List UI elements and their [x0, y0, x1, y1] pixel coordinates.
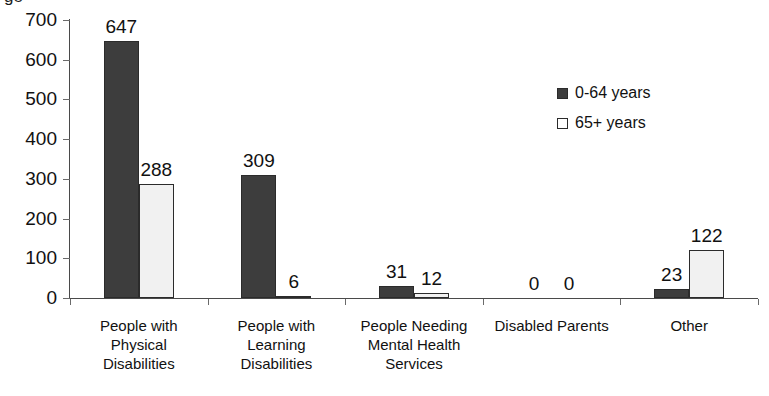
category-label-line: People with — [70, 316, 208, 335]
y-tick-label: 700 — [25, 10, 57, 29]
y-tick-mark — [63, 298, 70, 299]
category-label-line: Disabilities — [208, 354, 346, 373]
y-tick-label: 600 — [25, 50, 57, 69]
bar — [654, 289, 689, 298]
bar-value-label: 647 — [94, 17, 149, 36]
category-label-line: Mental Health — [345, 335, 483, 354]
category-label: People withPhysicalDisabilities — [70, 316, 208, 373]
category-label-line: People with — [208, 316, 346, 335]
category-label-line: Disabilities — [70, 354, 208, 373]
y-tick-mark — [63, 20, 70, 21]
y-tick-label: 100 — [25, 248, 57, 267]
y-tick-mark — [63, 219, 70, 220]
category-label-line: Physical — [70, 335, 208, 354]
bar — [139, 184, 174, 298]
bar-value-label: 122 — [679, 226, 734, 245]
y-tick-label: 400 — [25, 129, 57, 148]
y-tick-label: 500 — [25, 89, 57, 108]
category-label-line: Learning — [208, 335, 346, 354]
y-tick-label: 200 — [25, 209, 57, 228]
x-axis-separator-tick — [620, 299, 621, 305]
y-tick-mark — [63, 139, 70, 140]
cropped-title-text: ge — [4, 0, 23, 7]
bar — [276, 296, 311, 298]
chart-legend: 0-64 years 65+ years — [557, 78, 651, 138]
legend-label: 65+ years — [575, 114, 646, 132]
category-label: People NeedingMental HealthServices — [345, 316, 483, 373]
bar-value-label: 0 — [542, 274, 597, 293]
x-axis-separator-tick — [483, 299, 484, 305]
category-label: Disabled Parents — [483, 316, 621, 335]
x-axis-separator-tick — [758, 299, 759, 305]
x-axis-separator-tick — [70, 299, 71, 305]
y-axis-line — [69, 19, 70, 299]
bar-value-label: 23 — [644, 265, 699, 284]
x-axis-line — [69, 298, 758, 299]
category-label-line: People Needing — [345, 316, 483, 335]
legend-item-0: 0-64 years — [557, 78, 651, 108]
bar — [414, 293, 449, 298]
legend-item-1: 65+ years — [557, 108, 651, 138]
x-axis-separator-tick — [208, 299, 209, 305]
bar-value-label: 12 — [404, 269, 459, 288]
bar-value-label: 309 — [231, 151, 286, 170]
category-label-line: Disabled Parents — [483, 316, 621, 335]
bar-value-label: 288 — [129, 160, 184, 179]
category-label: People withLearningDisabilities — [208, 316, 346, 373]
y-tick-mark — [63, 60, 70, 61]
x-axis-separator-tick — [345, 299, 346, 305]
category-label-line: Other — [620, 316, 758, 335]
bar-chart: ge 0100200300400500600700 64728830963112… — [0, 0, 769, 396]
y-tick-label: 0 — [46, 288, 57, 307]
category-label-line: Services — [345, 354, 483, 373]
category-label: Other — [620, 316, 758, 335]
legend-swatch-filled-dark-square-icon — [557, 88, 568, 99]
legend-label: 0-64 years — [575, 84, 651, 102]
y-tick-mark — [63, 179, 70, 180]
legend-swatch-outline-white-square-icon — [557, 118, 568, 129]
y-tick-mark — [63, 258, 70, 259]
y-tick-mark — [63, 99, 70, 100]
bar-value-label: 6 — [266, 272, 321, 291]
y-tick-label: 300 — [25, 169, 57, 188]
